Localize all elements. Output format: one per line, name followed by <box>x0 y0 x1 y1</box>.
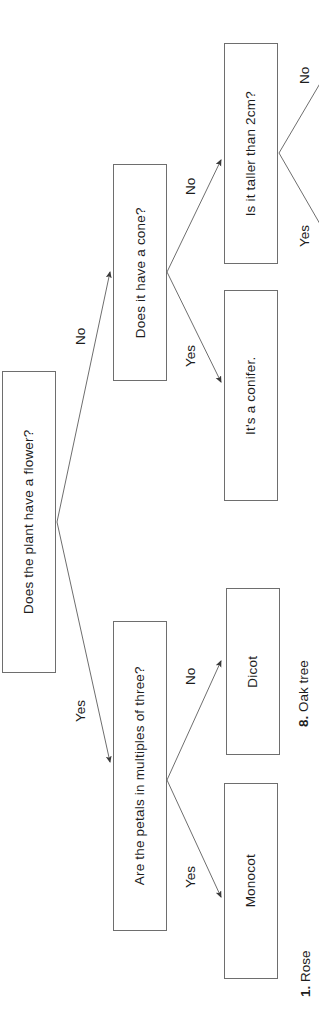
node-root[interactable]: Does the plant have a flower? <box>2 371 56 673</box>
caption-item-1: 8. Oak tree <box>297 651 315 727</box>
node-taller-label: Is it taller than 2cm? <box>244 91 258 216</box>
node-conifer-label: It's a conifer. <box>244 356 258 434</box>
edge-label-petals-yes: Yes <box>184 860 200 888</box>
node-dicot[interactable]: Dicot <box>226 588 280 755</box>
node-petals-label: Are the petals in multiples of three? <box>133 666 147 885</box>
caption-item-1-number: 8. <box>296 716 311 727</box>
caption-item-0: 1. Rose <box>299 943 317 997</box>
edge-label-petals-no: No <box>184 661 200 685</box>
node-cone[interactable]: Does it have a cone? <box>113 164 167 381</box>
edge-label-taller-yes: Yes <box>298 219 314 247</box>
edge-label-root-yes: Yes <box>74 694 90 722</box>
edge-label-root-no: No <box>74 321 90 345</box>
node-petals[interactable]: Are the petals in multiples of three? <box>113 621 167 931</box>
edge-root-to-petals <box>57 522 110 762</box>
caption-item-1-text: Oak tree <box>296 660 311 712</box>
node-monocot[interactable]: Monocot <box>224 783 278 979</box>
caption-item-0-text: Rose <box>298 950 313 982</box>
edge-label-cone-yes: Yes <box>184 339 200 367</box>
node-root-label: Does the plant have a flower? <box>22 430 36 614</box>
node-conifer[interactable]: It's a conifer. <box>224 290 278 501</box>
flowchart-page: Does the plant have a flower? Does it ha… <box>0 0 319 1031</box>
node-cone-label: Does it have a cone? <box>133 207 147 338</box>
node-taller[interactable]: Is it taller than 2cm? <box>224 43 278 264</box>
edge-root-to-cone <box>57 272 110 522</box>
edge-label-cone-no: No <box>184 171 200 195</box>
node-monocot-label: Monocot <box>244 854 258 907</box>
edge-label-taller-no: No <box>298 60 314 84</box>
node-dicot-label: Dicot <box>246 656 260 688</box>
caption-item-0-number: 1. <box>298 986 313 997</box>
